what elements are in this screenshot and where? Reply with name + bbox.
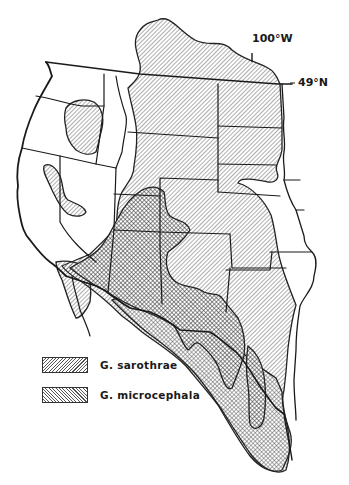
- distribution-map: [0, 0, 349, 485]
- legend-label-sarothrae: G. sarothrae: [100, 359, 177, 371]
- range-sarothrae-nevada: [44, 165, 86, 216]
- legend-item-sarothrae: G. sarothrae: [42, 357, 177, 373]
- legend-item-microcephala: G. microcephala: [42, 387, 200, 403]
- range-sarothrae-oregon: [65, 100, 103, 154]
- legend-swatch-microcephala: [42, 387, 88, 403]
- latitude-label: 49°N: [298, 76, 328, 89]
- longitude-label: 100°W: [252, 32, 293, 45]
- legend-label-microcephala: G. microcephala: [100, 389, 200, 401]
- legend-swatch-sarothrae: [42, 357, 88, 373]
